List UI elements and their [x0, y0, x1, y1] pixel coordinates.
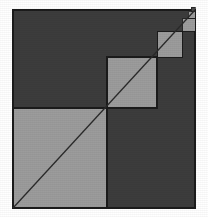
square-level-4: [182, 18, 195, 31]
square-level-2: [107, 57, 157, 108]
square-level-3: [157, 31, 182, 57]
figure-root: [0, 0, 208, 217]
recursive-square-diagram: [0, 0, 208, 217]
